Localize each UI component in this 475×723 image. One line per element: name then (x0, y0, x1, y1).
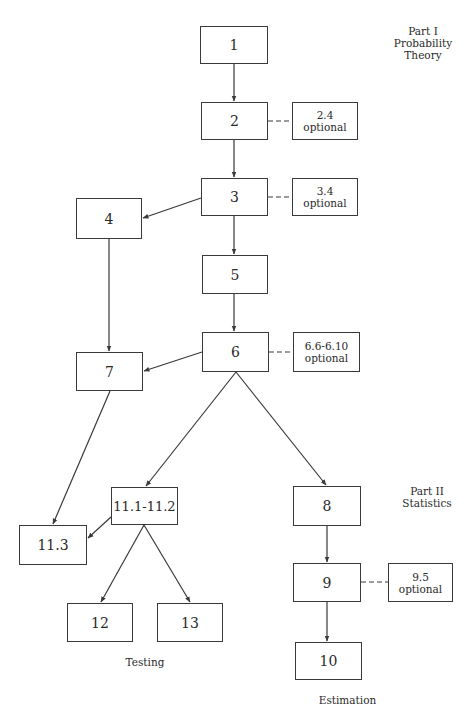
chapter-box-8: 8 (293, 486, 361, 526)
edge-11a-13 (144, 525, 190, 602)
optional-section: 6.6-6.10 (305, 340, 349, 352)
optional-box-6-6-6-10: 6.6-6.10 optional (293, 332, 360, 372)
part-1-label: Part I Probability Theory (383, 25, 463, 61)
chapter-box-13: 13 (157, 603, 223, 642)
chapter-box-7: 7 (76, 352, 143, 391)
chapter-label: 13 (181, 615, 199, 631)
part-1-line-3: Theory (383, 49, 463, 61)
chapter-label: 7 (105, 364, 114, 380)
edge-6-11a (146, 372, 236, 486)
chapter-label: 6 (231, 344, 240, 360)
chapter-label: 2 (230, 113, 239, 129)
testing-label: Testing (110, 656, 180, 668)
chapter-box-4: 4 (76, 198, 142, 239)
optional-section: 3.4 (317, 185, 334, 197)
chapter-label: 5 (231, 267, 240, 283)
chapter-box-11-1-11-2: 11.1-11.2 (111, 487, 178, 525)
part-2-line-2: Statistics (392, 497, 462, 509)
chapter-label: 12 (91, 615, 109, 631)
part-2-label: Part II Statistics (392, 485, 462, 509)
edge-7-11b (53, 391, 110, 524)
chapter-box-2: 2 (201, 102, 268, 140)
edge-6-7 (144, 352, 202, 371)
chapter-label: 8 (323, 498, 332, 514)
chapter-label: 4 (105, 211, 114, 227)
edge-11a-12 (101, 525, 144, 602)
chapter-label: 9 (323, 575, 332, 591)
part-1-line-2: Probability (383, 37, 463, 49)
chapter-box-11-3: 11.3 (19, 525, 87, 565)
chapter-label: 1 (230, 37, 239, 53)
chapter-label: 10 (320, 653, 338, 669)
edge-6-8 (236, 372, 326, 485)
chapter-box-9: 9 (293, 563, 361, 602)
optional-section: 2.4 (317, 109, 334, 121)
chapter-dependency-diagram: 1 2 3 4 5 6 7 8 9 10 11.1-11.2 11.3 12 1… (0, 0, 475, 723)
chapter-label: 3 (230, 189, 239, 205)
chapter-box-12: 12 (67, 603, 133, 642)
optional-box-9-5: 9.5 optional (388, 563, 453, 602)
optional-section: 9.5 (412, 571, 429, 583)
chapter-box-3: 3 (201, 178, 268, 216)
chapter-box-6: 6 (202, 332, 269, 372)
chapter-label: 11.3 (37, 537, 68, 553)
optional-note: optional (303, 197, 346, 209)
part-1-line-1: Part I (383, 25, 463, 37)
estimation-label: Estimation (300, 694, 395, 706)
chapter-box-10: 10 (295, 642, 362, 680)
edge-11a-11b (88, 517, 111, 538)
optional-box-2-4: 2.4 optional (292, 102, 358, 140)
part-2-line-1: Part II (392, 485, 462, 497)
chapter-box-1: 1 (200, 26, 268, 64)
optional-note: optional (303, 121, 346, 133)
edge-3-4 (143, 198, 201, 218)
chapter-label: 11.1-11.2 (113, 499, 175, 514)
optional-note: optional (399, 583, 442, 595)
chapter-box-5: 5 (202, 255, 268, 294)
optional-note: optional (305, 352, 348, 364)
optional-box-3-4: 3.4 optional (292, 178, 358, 216)
